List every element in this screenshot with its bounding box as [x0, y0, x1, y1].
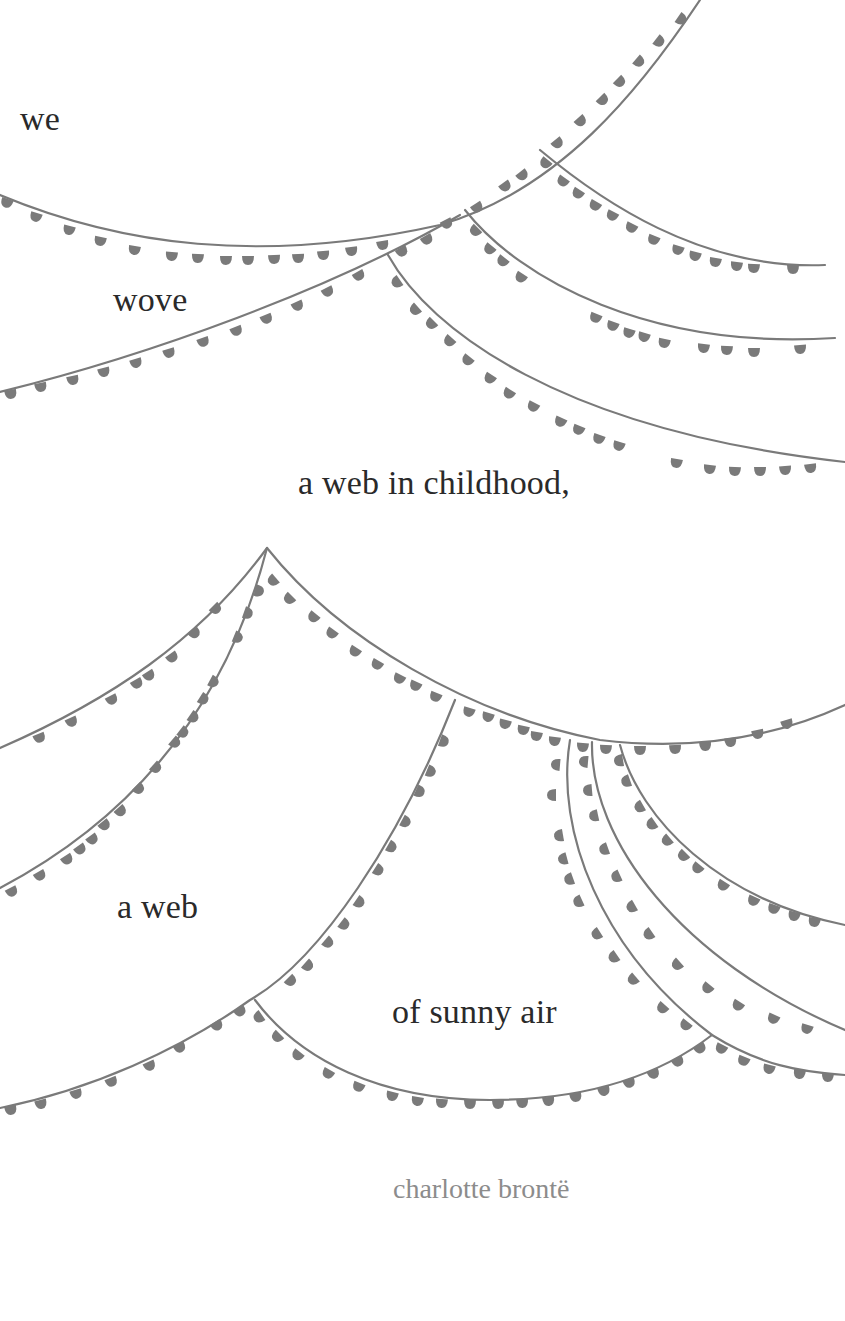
poem-line-5: of sunny air [392, 995, 557, 1029]
bunting-flags [0, 12, 834, 1116]
poem-poster: we wove a web in childhood, a web of sun… [0, 0, 845, 1321]
poem-line-3: a web in childhood, [298, 466, 570, 500]
bunting-garlands-illustration [0, 0, 845, 1321]
poem-line-4: a web [117, 890, 198, 924]
poem-line-2: wove [113, 283, 187, 317]
author-attribution: charlotte brontë [393, 1175, 569, 1203]
poem-line-1: we [20, 102, 60, 136]
